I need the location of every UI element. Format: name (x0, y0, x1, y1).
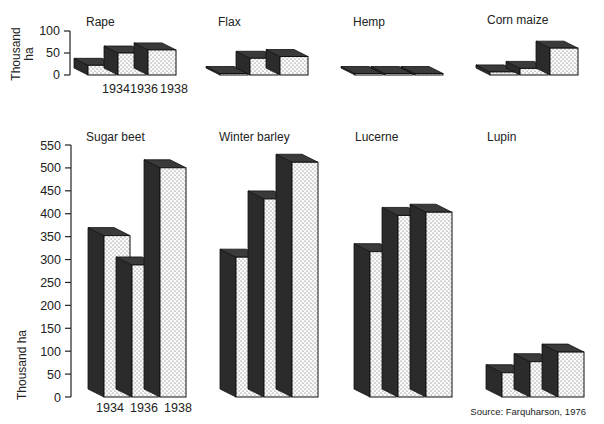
panel-title-lupin: Lupin (487, 130, 516, 144)
panel-title-rape: Rape (86, 15, 115, 29)
bottom-y-tick: 50 (47, 368, 61, 382)
bottom-y-axis-label: Thousand ha (15, 330, 29, 400)
panel-lupin (486, 344, 584, 397)
bottom-y-tick: 400 (40, 207, 61, 221)
top-y-axis-label-line1: Thousand (9, 27, 23, 80)
crop-area-small-multiples-chart: Thousand ha 100 50 0 1934 1936 1938 Thou… (0, 0, 604, 424)
bar-1938 (410, 204, 452, 397)
top-y-tick: 50 (46, 46, 60, 60)
panel-title-hemp: Hemp (353, 15, 385, 29)
bar-1938 (134, 43, 176, 75)
bottom-y-tick: 0 (54, 391, 61, 405)
bar-1938 (542, 344, 584, 397)
panel-title-flax: Flax (218, 15, 241, 29)
bar-1938 (276, 154, 318, 397)
source-caption: Source: Farquharson, 1976 (470, 406, 586, 417)
top-x-tick: 1936 (130, 82, 158, 96)
panel-lucerne (354, 204, 452, 397)
bar-1938 (536, 41, 578, 75)
bottom-y-tick: 100 (40, 345, 61, 359)
bottom-y-tick: 350 (40, 230, 61, 244)
bottom-x-tick: 1938 (164, 401, 192, 415)
top-x-tick: 1938 (160, 82, 188, 96)
bottom-y-tick: 250 (40, 276, 61, 290)
bar-1938 (266, 50, 308, 75)
bottom-y-tick: 450 (40, 184, 61, 198)
bottom-y-tick: 150 (40, 322, 61, 336)
top-x-tick: 1934 (102, 82, 130, 96)
panel-title-winter-barley: Winter barley (219, 130, 290, 144)
bottom-y-tick: 550 (40, 139, 61, 153)
panel-sugar-beet (88, 160, 186, 397)
panel-rape (74, 43, 176, 75)
panel-winter-barley (220, 154, 318, 397)
bottom-y-tick: 200 (40, 299, 61, 313)
panel-title-sugar-beet: Sugar beet (86, 130, 145, 144)
panel-corn-maize (476, 41, 578, 75)
bottom-x-tick: 1934 (96, 401, 124, 415)
bar-1938 (144, 160, 186, 397)
bottom-y-tick: 500 (40, 161, 61, 175)
panel-title-corn-maize: Corn maize (487, 13, 549, 27)
top-y-tick: 0 (53, 68, 60, 82)
panel-flax (206, 50, 308, 75)
panel-title-lucerne: Lucerne (355, 130, 399, 144)
top-y-tick: 100 (39, 24, 60, 38)
panel-hemp (341, 67, 443, 76)
bottom-y-tick: 300 (40, 253, 61, 267)
top-y-axis-label-line2: ha (22, 47, 36, 61)
bottom-x-tick: 1936 (130, 401, 158, 415)
